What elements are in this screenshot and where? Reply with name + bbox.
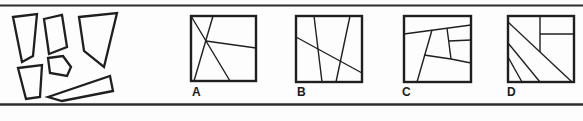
piece-bottom-left	[18, 65, 42, 99]
piece-top-middle	[44, 15, 67, 54]
puzzle-pieces	[13, 13, 117, 101]
scene-svg	[0, 0, 583, 121]
option-c-figure[interactable]	[404, 16, 471, 82]
puzzle-figure: A B C D	[0, 0, 583, 121]
option-b-figure[interactable]	[296, 16, 362, 82]
piece-big-right	[79, 13, 117, 67]
option-label-b[interactable]: B	[297, 86, 306, 98]
piece-bottom-wedge	[48, 76, 113, 101]
option-label-d[interactable]: D	[507, 86, 516, 98]
piece-tall-left	[13, 14, 37, 62]
piece-center-small	[48, 56, 71, 76]
option-label-c[interactable]: C	[402, 86, 411, 98]
option-a-figure[interactable]	[191, 16, 256, 81]
option-d-figure[interactable]	[508, 16, 574, 82]
option-label-a[interactable]: A	[192, 86, 201, 98]
